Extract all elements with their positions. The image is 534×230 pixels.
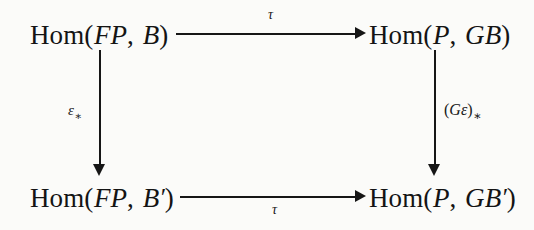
close-paren: ) — [165, 183, 174, 213]
close-paren: ) — [159, 20, 168, 50]
target-object-b: B — [142, 20, 159, 50]
arrow-label-left: ε∗ — [68, 103, 82, 123]
node-bottom-left: Hom(FP, B′) — [30, 185, 174, 212]
arg-separator: , — [450, 183, 458, 213]
arrowhead-down-icon — [428, 164, 440, 176]
arg-separator: , — [127, 20, 135, 50]
node-top-right: Hom(P, GB) — [369, 22, 510, 49]
source-object-p: P — [432, 20, 449, 50]
target-object-gb: GB — [465, 20, 502, 50]
node-top-left: Hom(FP, B) — [30, 22, 168, 49]
hom-functor-label: Hom — [369, 183, 423, 213]
arrow-shaft — [434, 50, 436, 165]
hom-functor-label: Hom — [369, 20, 423, 50]
target-object-gb: GB — [465, 183, 502, 213]
node-bottom-right: Hom(P, GB′) — [369, 185, 516, 212]
arrow-label-right: (Gε)∗ — [444, 102, 482, 123]
arrow-right-vertical — [426, 50, 444, 176]
hom-functor-label: Hom — [30, 183, 84, 213]
arrow-shaft — [99, 50, 101, 165]
arrowhead-down-icon — [93, 164, 105, 176]
lower-star-subscript: ∗ — [74, 110, 82, 123]
source-object-fp: FP — [93, 20, 127, 50]
lower-star-subscript: ∗ — [473, 109, 482, 123]
arrow-shaft — [180, 196, 357, 198]
target-object-b: B — [142, 183, 159, 213]
arg-separator: , — [450, 20, 458, 50]
functor-g-symbol: G — [449, 101, 461, 118]
hom-functor-label: Hom — [30, 20, 84, 50]
arrow-label-top: τ — [268, 8, 273, 22]
source-object-p: P — [432, 183, 449, 213]
close-paren: ) — [507, 183, 516, 213]
arg-separator: , — [127, 183, 135, 213]
arrow-shaft — [176, 33, 357, 35]
close-paren: ) — [501, 20, 510, 50]
source-object-fp: FP — [93, 183, 127, 213]
arrowhead-right-icon — [355, 27, 366, 39]
commutative-diagram: Hom(FP, B) Hom(P, GB) Hom(FP, B′) Hom(P,… — [0, 0, 534, 230]
arrowhead-right-icon — [355, 190, 366, 202]
arrow-top-horizontal — [176, 25, 366, 43]
arrow-label-bottom: τ — [272, 203, 277, 217]
close-paren: ) — [467, 101, 472, 118]
arrow-left-vertical — [91, 50, 109, 176]
